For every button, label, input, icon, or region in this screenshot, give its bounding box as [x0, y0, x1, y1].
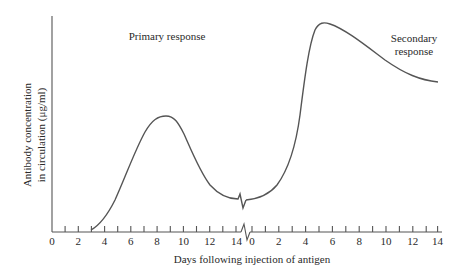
antibody-response-chart: 0 2 4 6 8 10 12 14 0 2 4 6 8 10 12 14 Da… [0, 0, 464, 276]
svg-text:8: 8 [356, 235, 362, 247]
svg-text:4: 4 [303, 235, 309, 247]
svg-text:6: 6 [128, 235, 134, 247]
x-axis-title: Days following injection of antigen [174, 253, 331, 265]
x-tick-labels-secondary: 0 2 4 6 8 10 12 14 [249, 235, 443, 247]
primary-response-label: Primary response [129, 30, 206, 42]
svg-text:8: 8 [154, 235, 160, 247]
x-ticks-primary [65, 226, 236, 232]
x-ticks-secondary [252, 226, 438, 232]
svg-text:Antibody concentration: Antibody concentration [21, 82, 33, 187]
svg-text:4: 4 [102, 235, 108, 247]
secondary-response-label-line2: response [395, 45, 434, 57]
svg-text:12: 12 [204, 235, 215, 247]
svg-text:2: 2 [76, 235, 82, 247]
svg-text:0: 0 [249, 235, 255, 247]
svg-text:12: 12 [407, 235, 418, 247]
svg-text:14: 14 [432, 235, 444, 247]
svg-text:2: 2 [276, 235, 282, 247]
svg-text:10: 10 [381, 235, 393, 247]
y-axis-title: Antibody concentration in circulation (μ… [21, 82, 48, 187]
secondary-response-label-line1: Secondary [391, 32, 438, 44]
primary-response-curve [91, 116, 246, 230]
svg-text:0: 0 [49, 235, 55, 247]
svg-text:10: 10 [178, 235, 190, 247]
svg-text:14: 14 [231, 235, 243, 247]
svg-text:6: 6 [330, 235, 336, 247]
svg-text:in circulation (μg/ml): in circulation (μg/ml) [35, 87, 48, 182]
x-tick-labels-primary: 0 2 4 6 8 10 12 14 [49, 235, 242, 247]
